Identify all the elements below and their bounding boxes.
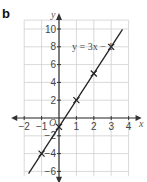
x-tick-label: 4	[126, 121, 132, 132]
y-tick-label: 8	[50, 41, 56, 52]
line-chart: yxO−2−11234108642−2−4−6y = 3x − 1	[0, 0, 147, 182]
x-axis-label: x	[138, 118, 144, 129]
x-tick-label: 2	[91, 121, 97, 132]
y-axis-arrow-up	[56, 13, 62, 20]
x-tick-label: 3	[108, 121, 114, 132]
origin-label: O	[49, 117, 56, 128]
x-tick-label: −2	[18, 121, 30, 132]
y-tick-label: 10	[45, 24, 57, 35]
y-tick-label: 4	[50, 77, 56, 88]
y-tick-label: −4	[45, 148, 57, 159]
y-axis-label: y	[50, 9, 56, 20]
x-tick-label: 1	[74, 121, 80, 132]
equation-label: y = 3x − 1	[72, 41, 113, 52]
y-tick-label: 6	[50, 59, 56, 70]
y-tick-label: 2	[50, 95, 56, 106]
x-axis-arrow-left	[11, 115, 17, 121]
y-tick-label: −6	[45, 166, 57, 177]
y-axis-arrow-down	[56, 177, 62, 182]
